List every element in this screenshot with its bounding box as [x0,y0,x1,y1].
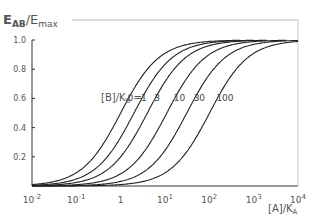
curve-100 [32,42,298,187]
series-label-30: 30 [194,93,206,103]
series-label-3: 3 [154,93,160,103]
series-label-100: 100 [216,93,233,103]
y-axis-title: EAB/Emax [3,12,59,29]
y-tick-label: 1.0 [13,36,26,45]
legend-label: [B]/KB = [101,92,142,105]
curve-0 [32,40,240,184]
x-tick-label: 101 [157,193,173,205]
y-tick-label: 0.4 [13,124,26,133]
curve-3 [32,40,267,185]
series-labels: 0131030100 [128,93,234,103]
x-tick-label: 10-2 [23,193,41,205]
series-label-0: 0 [128,93,134,103]
dose-response-chart: EAB/Emax 0.20.40.60.81.0 10-210-11101102… [0,0,312,223]
series-label-10: 10 [174,93,186,103]
y-tick-label: 0.2 [13,153,26,162]
x-tick-label: 103 [246,193,262,205]
x-ticks: 10-210-11101102103104 [23,193,307,205]
curve-30 [32,41,298,187]
curves [32,40,298,186]
x-tick-label: 1 [118,195,124,205]
series-label-1: 1 [141,93,147,103]
x-tick-label: 10-1 [67,193,85,205]
y-tick-label: 0.8 [13,65,26,74]
y-tick-label: 0.6 [13,94,26,103]
curve-10 [32,40,287,186]
x-tick-label: 102 [201,193,217,205]
